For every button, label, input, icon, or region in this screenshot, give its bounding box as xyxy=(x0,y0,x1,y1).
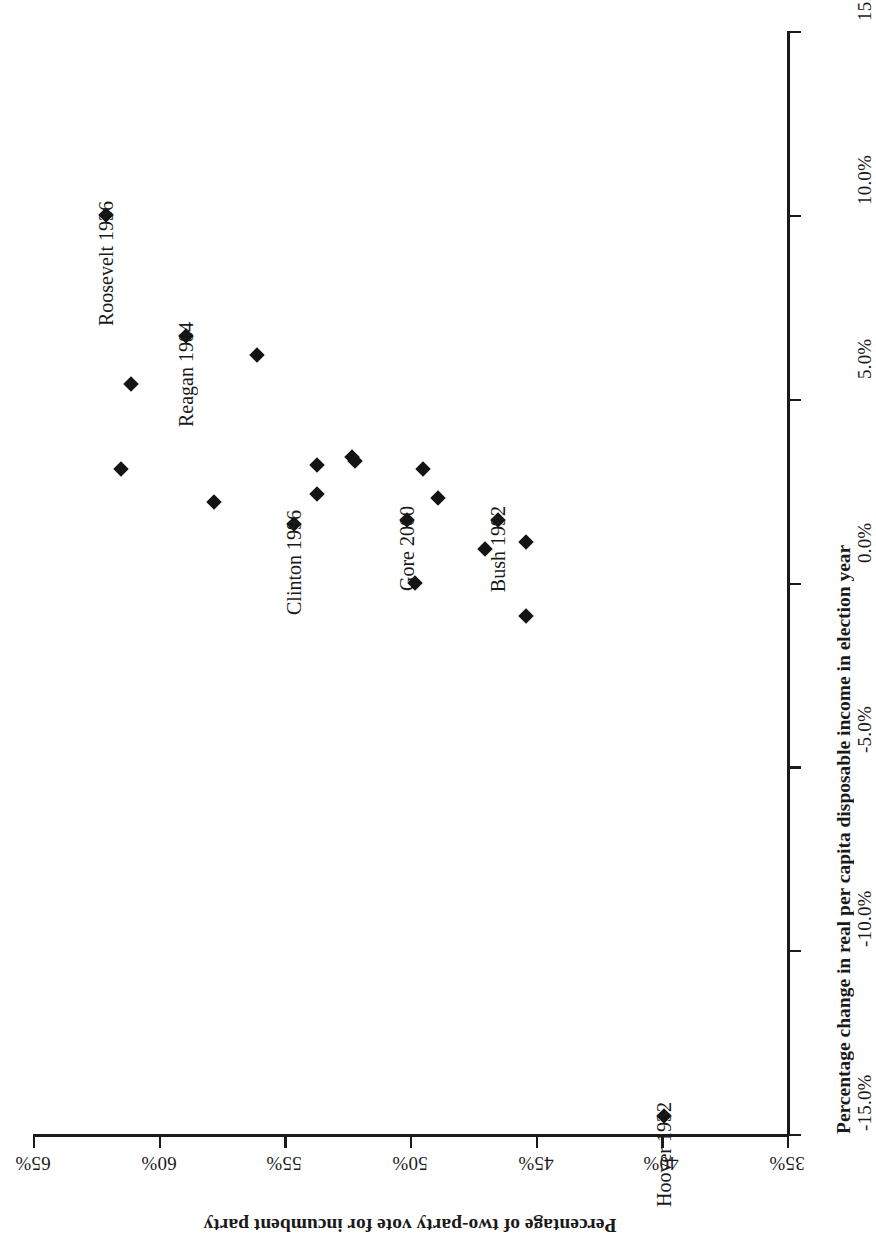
data-point-label: Roosevelt 1936 xyxy=(95,201,118,326)
data-point-label: Reagan 1984 xyxy=(175,322,198,427)
vote-tick-label: 60% xyxy=(99,1152,219,1174)
income-tick xyxy=(787,399,801,401)
vote-axis-title: Percentage of two-party vote for incumbe… xyxy=(33,1214,787,1236)
data-point[interactable] xyxy=(518,534,534,550)
data-point-label: Clinton 1996 xyxy=(283,510,306,615)
income-axis-title: Percentage change in real per capita dis… xyxy=(833,574,855,1134)
data-point[interactable] xyxy=(113,461,129,477)
income-tick xyxy=(787,31,801,33)
data-point[interactable] xyxy=(206,494,222,510)
data-point[interactable] xyxy=(430,490,446,506)
data-point[interactable] xyxy=(309,457,325,473)
income-tick-label: 5.0% xyxy=(805,339,876,459)
data-point[interactable] xyxy=(518,608,534,624)
vote-tick-label: 55% xyxy=(224,1152,344,1174)
vote-tick xyxy=(536,1134,538,1148)
vote-tick-label: 50% xyxy=(350,1152,470,1174)
income-tick xyxy=(787,215,801,217)
vote-tick xyxy=(284,1134,286,1148)
data-point[interactable] xyxy=(249,347,265,363)
vote-tick xyxy=(159,1134,161,1148)
income-tick xyxy=(787,583,801,585)
vote-tick-label: 45% xyxy=(476,1152,596,1174)
vote-tick xyxy=(787,1134,789,1148)
income-tick-label: 10.0% xyxy=(805,155,876,275)
vote-tick xyxy=(33,1134,35,1148)
vote-tick-label: 35% xyxy=(727,1152,847,1174)
income-tick xyxy=(787,950,801,952)
data-point[interactable] xyxy=(123,376,139,392)
income-tick-label: 15.0% xyxy=(805,0,876,91)
data-point[interactable] xyxy=(415,461,431,477)
vote-tick-label: 65% xyxy=(0,1152,93,1174)
data-point-label: Hoover 1932 xyxy=(653,1102,676,1207)
vote-tick xyxy=(410,1134,412,1148)
data-point[interactable] xyxy=(309,486,325,502)
income-tick xyxy=(787,766,801,768)
